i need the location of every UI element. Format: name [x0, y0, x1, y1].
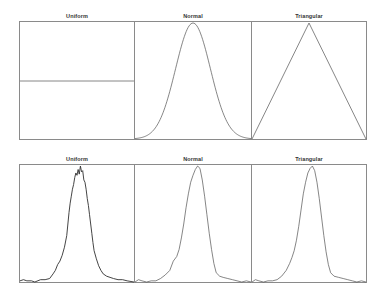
- panel-title: Uniform: [20, 156, 134, 163]
- output-distributions-row: Uniform Normal Triangular: [19, 164, 367, 283]
- series-line: [252, 166, 366, 282]
- chart-plot: [20, 22, 134, 139]
- series-line: [252, 23, 366, 139]
- chart-panel-bottom-normal: Normal: [134, 164, 252, 283]
- chart-plot: [135, 165, 251, 282]
- chart-panel-bottom-triangular: Triangular: [251, 164, 367, 283]
- chart-plot: [135, 22, 251, 139]
- panel-title: Triangular: [252, 156, 366, 163]
- series-line: [135, 166, 251, 282]
- chart-plot: [20, 165, 134, 282]
- series-line: [135, 23, 251, 139]
- input-distributions-row: Uniform Normal Triangular: [19, 21, 367, 140]
- series-line: [20, 166, 134, 282]
- chart-panel-top-normal: Normal: [134, 21, 252, 140]
- chart-plot: [252, 22, 366, 139]
- chart-panel-top-triangular: Triangular: [251, 21, 367, 140]
- panel-title: Normal: [135, 13, 251, 20]
- chart-plot: [252, 165, 366, 282]
- chart-panel-top-uniform: Uniform: [19, 21, 135, 140]
- chart-panel-bottom-uniform: Uniform: [19, 164, 135, 283]
- panel-title: Normal: [135, 156, 251, 163]
- panel-title: Triangular: [252, 13, 366, 20]
- panel-title: Uniform: [20, 13, 134, 20]
